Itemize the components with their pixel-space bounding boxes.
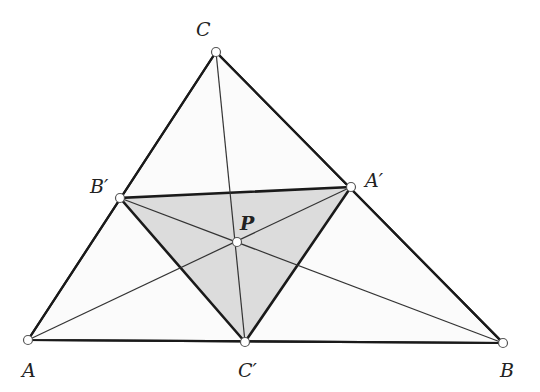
label-c: C	[196, 18, 211, 40]
point-c	[212, 48, 221, 57]
label-a: A	[20, 359, 36, 381]
cevian-triangle-diagram: C B′ A′ P A C′ B	[0, 0, 540, 392]
label-b: B	[499, 359, 514, 381]
point-a	[24, 336, 33, 345]
point-a-prime	[347, 183, 356, 192]
label-p: P	[239, 212, 255, 234]
label-c-prime: C′	[238, 359, 258, 381]
label-b-prime: B′	[89, 175, 109, 197]
point-p	[233, 238, 242, 247]
point-c-prime	[241, 338, 250, 347]
label-a-prime: A′	[363, 169, 384, 191]
point-b	[499, 339, 508, 348]
point-b-prime	[116, 194, 125, 203]
